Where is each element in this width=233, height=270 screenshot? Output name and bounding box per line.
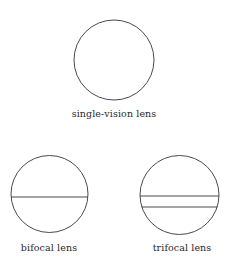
single-vision-lens-circle bbox=[74, 20, 154, 100]
trifocal-lens-label: trifocal lens bbox=[153, 242, 212, 253]
single-vision-lens bbox=[74, 20, 154, 100]
trifocal-lens-circle bbox=[140, 156, 219, 235]
single-vision-lens-label: single-vision lens bbox=[72, 108, 157, 119]
bifocal-lens-label: bifocal lens bbox=[21, 242, 77, 253]
bifocal-lens-circle bbox=[11, 156, 88, 233]
bifocal-lens bbox=[11, 156, 88, 233]
trifocal-lens bbox=[140, 156, 219, 235]
lens-diagram bbox=[0, 0, 233, 270]
